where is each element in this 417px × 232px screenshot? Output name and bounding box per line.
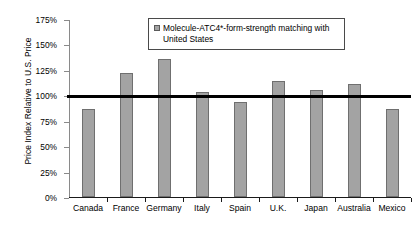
y-axis-tick-label: 75% [40, 117, 57, 127]
bar [158, 59, 171, 197]
x-axis-tick [373, 198, 374, 202]
reference-line-100 [67, 95, 411, 98]
y-axis-tick: 175% [64, 20, 69, 21]
legend: Molecule-ATC4*-form-strength matching wi… [148, 18, 345, 50]
x-axis-tick [107, 198, 108, 202]
y-axis-tick-label: 175% [36, 15, 57, 25]
y-axis-tick: 50% [64, 147, 69, 148]
y-axis-title: Price Index Relative to U.S. Price [23, 15, 33, 187]
x-axis-tick [297, 198, 298, 202]
bar [272, 81, 285, 197]
legend-swatch-icon [154, 25, 160, 31]
bar [234, 102, 247, 197]
y-axis-tick-label: 100% [36, 91, 57, 101]
x-axis-tick [259, 198, 260, 202]
bar [120, 73, 133, 197]
y-axis-tick-label: 125% [36, 66, 57, 76]
y-axis-tick-label: 0% [45, 193, 57, 203]
x-axis-tick [221, 198, 222, 202]
x-axis-label: Mexico [362, 203, 417, 213]
x-axis-tick [335, 198, 336, 202]
bar [348, 84, 361, 197]
bar-chart: Price Index Relative to U.S. Price 0%25%… [0, 0, 417, 232]
bar [196, 92, 209, 197]
y-axis-line [69, 20, 70, 198]
y-axis-tick-label: 50% [40, 142, 57, 152]
x-axis-tick [183, 198, 184, 202]
y-axis-tick: 25% [64, 173, 69, 174]
bar [310, 90, 323, 197]
legend-entry: Molecule-ATC4*-form-strength matching wi… [154, 23, 339, 44]
x-axis-tick [411, 198, 412, 202]
y-axis-tick: 0% [64, 198, 69, 199]
y-axis-tick-label: 150% [36, 40, 57, 50]
x-axis-tick [145, 198, 146, 202]
bar [82, 109, 95, 197]
bar [386, 109, 399, 197]
legend-label: Molecule-ATC4*-form-strength matching wi… [163, 23, 339, 44]
y-axis-tick: 150% [64, 45, 69, 46]
y-axis-tick: 125% [64, 71, 69, 72]
y-axis-tick: 75% [64, 122, 69, 123]
y-axis-tick-label: 25% [40, 168, 57, 178]
x-axis-line [69, 197, 411, 198]
